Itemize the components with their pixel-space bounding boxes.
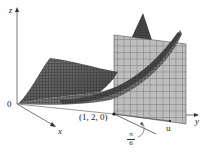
surface-diagram: z 0 x y (1, 2, 0) π 6 u: [0, 0, 206, 152]
x-axis-label: x: [58, 127, 62, 136]
vector-u-label: u: [166, 124, 171, 133]
point-label: (1, 2, 0): [79, 113, 108, 122]
angle-denominator: 6: [127, 140, 135, 147]
origin-label: 0: [7, 100, 12, 109]
y-axis-label: y: [195, 117, 199, 126]
z-axis-label: z: [9, 7, 12, 15]
angle-numerator: π: [127, 131, 135, 138]
